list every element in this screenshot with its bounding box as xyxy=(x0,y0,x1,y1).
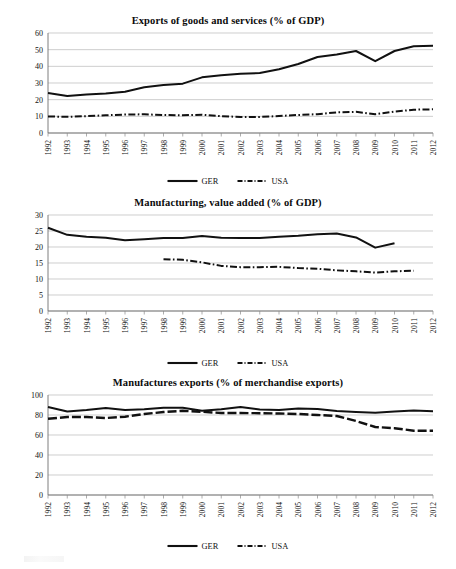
y-axis-tick-label: 10 xyxy=(35,112,43,121)
x-axis-year-label: 1994 xyxy=(83,318,92,333)
series-line-usa xyxy=(164,259,414,272)
x-axis-year-label: 1999 xyxy=(179,140,188,155)
x-axis-year-label: 2004 xyxy=(275,140,284,155)
x-axis-year-label: 2005 xyxy=(294,140,303,155)
y-axis-tick-label: 100 xyxy=(31,391,43,400)
legend-label-ger: GER xyxy=(202,177,219,186)
x-axis-year-label: 2007 xyxy=(333,140,342,155)
x-axis-year-label: 2011 xyxy=(410,502,419,517)
y-axis-tick-label: 25 xyxy=(35,227,43,236)
y-axis-tick-label: 80 xyxy=(35,411,43,420)
x-axis-year-label: 1992 xyxy=(44,318,53,333)
y-axis-tick-label: 40 xyxy=(35,62,43,71)
x-axis-year-label: 2005 xyxy=(294,502,303,517)
x-axis-year-label: 2003 xyxy=(256,318,265,333)
x-axis-year-label: 2004 xyxy=(275,502,284,517)
y-axis-tick-label: 30 xyxy=(35,211,43,220)
x-axis-year-label: 1992 xyxy=(44,502,53,517)
x-axis-year-label: 1994 xyxy=(83,502,92,517)
x-axis-year-label: 1994 xyxy=(83,140,92,155)
x-axis-year-label: 2008 xyxy=(352,318,361,333)
chart-panel-manufacturing-value-added: Manufacturing, value added (% of GDP) 05… xyxy=(0,196,456,376)
figure-page: Exports of goods and services (% of GDP)… xyxy=(0,0,456,569)
chart-1-title: Exports of goods and services (% of GDP) xyxy=(0,14,456,29)
x-axis-year-label: 2003 xyxy=(256,502,265,517)
x-axis-year-label: 1997 xyxy=(140,140,149,155)
x-axis-year-label: 2006 xyxy=(314,140,323,155)
chart-2-title: Manufacturing, value added (% of GDP) xyxy=(0,196,456,211)
x-axis-year-label: 2002 xyxy=(237,318,246,333)
x-axis-year-label: 1996 xyxy=(121,140,130,155)
x-axis-year-label: 1999 xyxy=(179,502,188,517)
x-axis-year-label: 2008 xyxy=(352,502,361,517)
x-axis-year-label: 2010 xyxy=(391,140,400,155)
scan-artifact xyxy=(24,556,64,562)
x-axis-year-label: 1998 xyxy=(160,140,169,155)
legend-label-ger: GER xyxy=(202,359,219,368)
y-axis-tick-label: 30 xyxy=(35,79,43,88)
x-axis-year-label: 1996 xyxy=(121,318,130,333)
x-axis-year-label: 2007 xyxy=(333,502,342,517)
x-axis-year-label: 2009 xyxy=(371,502,380,517)
x-axis-year-label: 2005 xyxy=(294,318,303,333)
x-axis-year-label: 1995 xyxy=(102,502,111,517)
chart-panel-exports-goods-services: Exports of goods and services (% of GDP)… xyxy=(0,14,456,196)
x-axis-year-label: 2002 xyxy=(237,140,246,155)
y-axis-tick-label: 0 xyxy=(39,307,43,316)
x-axis-year-label: 1993 xyxy=(63,318,72,333)
y-axis-tick-label: 0 xyxy=(39,491,43,500)
x-axis-year-label: 1999 xyxy=(179,318,188,333)
x-axis-year-label: 2012 xyxy=(429,140,438,155)
x-axis-year-label: 2001 xyxy=(217,140,226,155)
chart-3-canvas: 0204060801001992199319941995199619971998… xyxy=(0,391,456,561)
x-axis-year-label: 1998 xyxy=(160,318,169,333)
chart-1-canvas: 0102030405060199219931994199519961997199… xyxy=(0,29,456,197)
y-axis-tick-label: 40 xyxy=(35,451,43,460)
x-axis-year-label: 2010 xyxy=(391,502,400,517)
x-axis-year-label: 2006 xyxy=(314,318,323,333)
x-axis-year-label: 1998 xyxy=(160,502,169,517)
x-axis-year-label: 1997 xyxy=(140,318,149,333)
legend-label-ger: GER xyxy=(202,542,219,551)
y-axis-tick-label: 20 xyxy=(35,96,43,105)
series-line-ger xyxy=(48,46,433,96)
x-axis-year-label: 2001 xyxy=(217,502,226,517)
y-axis-tick-label: 0 xyxy=(39,129,43,138)
chart-3-title: Manufactures exports (% of merchandise e… xyxy=(0,376,456,391)
series-line-usa xyxy=(48,109,433,117)
chart-panel-manufactures-exports: Manufactures exports (% of merchandise e… xyxy=(0,376,456,562)
y-axis-tick-label: 15 xyxy=(35,259,43,268)
x-axis-year-label: 1992 xyxy=(44,140,53,155)
x-axis-year-label: 2009 xyxy=(371,140,380,155)
x-axis-year-label: 2009 xyxy=(371,318,380,333)
x-axis-year-label: 1995 xyxy=(102,318,111,333)
x-axis-year-label: 2000 xyxy=(198,502,207,517)
y-axis-tick-label: 60 xyxy=(35,29,43,38)
x-axis-year-label: 2010 xyxy=(391,318,400,333)
x-axis-year-label: 2003 xyxy=(256,140,265,155)
x-axis-year-label: 2007 xyxy=(333,318,342,333)
x-axis-year-label: 1993 xyxy=(63,502,72,517)
y-axis-tick-label: 60 xyxy=(35,431,43,440)
x-axis-year-label: 2002 xyxy=(237,502,246,517)
x-axis-year-label: 1996 xyxy=(121,502,130,517)
x-axis-year-label: 2011 xyxy=(410,140,419,155)
y-axis-tick-label: 10 xyxy=(35,275,43,284)
x-axis-year-label: 2012 xyxy=(429,502,438,517)
y-axis-tick-label: 50 xyxy=(35,46,43,55)
x-axis-year-label: 2011 xyxy=(410,318,419,333)
x-axis-year-label: 2004 xyxy=(275,318,284,333)
y-axis-tick-label: 20 xyxy=(35,243,43,252)
x-axis-year-label: 1997 xyxy=(140,502,149,517)
x-axis-year-label: 2000 xyxy=(198,140,207,155)
x-axis-year-label: 2006 xyxy=(314,502,323,517)
y-axis-tick-label: 5 xyxy=(39,291,43,300)
chart-2-canvas: 0510152025301992199319941995199619971998… xyxy=(0,211,456,377)
legend-label-usa: USA xyxy=(272,177,289,186)
x-axis-year-label: 2008 xyxy=(352,140,361,155)
x-axis-year-label: 2012 xyxy=(429,318,438,333)
x-axis-year-label: 1993 xyxy=(63,140,72,155)
legend-label-usa: USA xyxy=(272,542,289,551)
x-axis-year-label: 1995 xyxy=(102,140,111,155)
legend-label-usa: USA xyxy=(272,359,289,368)
